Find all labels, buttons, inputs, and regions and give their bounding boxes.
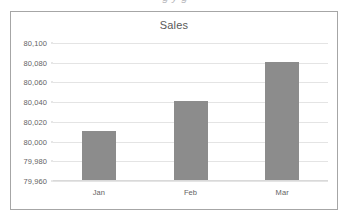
chart-title: Sales: [11, 19, 337, 31]
y-axis-tick-label: 80,040: [23, 98, 47, 107]
y-axis-tick-mark: [51, 62, 53, 63]
y-axis-tick-mark: [51, 161, 53, 162]
y-axis-tick-label: 80,080: [23, 58, 47, 67]
x-axis-tick-label: Mar: [276, 188, 289, 197]
y-gridline: [53, 43, 328, 44]
clipped-text-above-chart: g y g: [0, 0, 350, 5]
y-axis-tick-label: 80,000: [23, 137, 47, 146]
y-axis-tick-label: 80,020: [23, 117, 47, 126]
plot-area: 80,10080,08080,06080,04080,02080,00079,9…: [53, 43, 328, 181]
bar-jan: [82, 131, 116, 180]
y-axis-tick-label: 79,960: [23, 177, 47, 186]
y-axis-tick-mark: [51, 121, 53, 122]
y-axis-tick-label: 80,060: [23, 78, 47, 87]
y-axis-tick-label: 80,100: [23, 39, 47, 48]
bar-feb: [174, 101, 208, 180]
chart-container: Sales 80,10080,08080,06080,04080,02080,0…: [10, 11, 338, 210]
y-axis-tick-mark: [51, 82, 53, 83]
y-axis-tick-mark: [51, 141, 53, 142]
bar-mar: [265, 62, 299, 180]
x-axis-line: [53, 180, 328, 181]
y-axis-tick-mark: [51, 102, 53, 103]
y-axis-tick-mark: [51, 43, 53, 44]
y-axis-tick-label: 79,980: [23, 157, 47, 166]
x-axis-tick-label: Jan: [93, 188, 105, 197]
x-axis-tick-label: Feb: [184, 188, 197, 197]
y-gridline: [53, 181, 328, 182]
